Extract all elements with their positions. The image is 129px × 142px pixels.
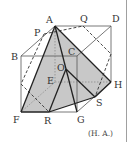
label-D: D xyxy=(112,13,120,24)
label-A: A xyxy=(45,14,53,25)
label-B: B xyxy=(11,51,18,62)
label-O: O xyxy=(57,62,65,73)
label-Q: Q xyxy=(80,13,88,24)
cube-pyramid-diagram: A Q D P B C O E H S F R G (H. A.) xyxy=(0,0,129,142)
label-H: H xyxy=(114,79,122,90)
label-P: P xyxy=(34,27,41,38)
label-R: R xyxy=(44,115,52,126)
label-S: S xyxy=(96,97,103,108)
label-F: F xyxy=(13,114,20,125)
figure-credit: (H. A.) xyxy=(88,129,113,138)
label-G: G xyxy=(77,114,85,125)
label-C: C xyxy=(68,46,75,57)
label-E: E xyxy=(47,75,54,86)
